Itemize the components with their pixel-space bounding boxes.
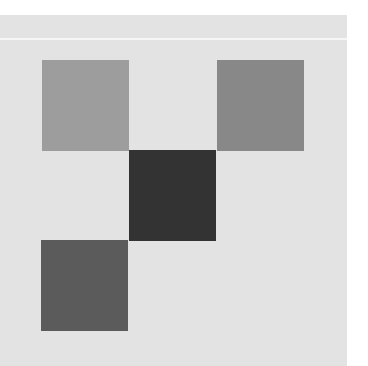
top-left-square	[42, 60, 129, 151]
center-square	[129, 150, 216, 241]
top-right-square	[217, 60, 304, 151]
bottom-left-square	[41, 240, 128, 331]
divider-line	[0, 38, 347, 40]
